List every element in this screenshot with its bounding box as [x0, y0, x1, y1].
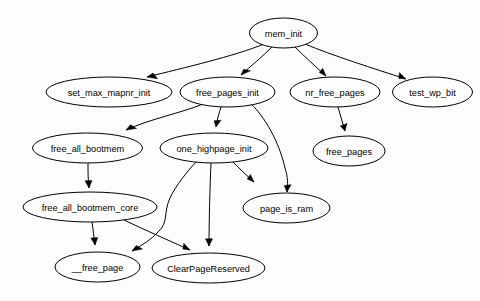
- graph-edge-one_highpage_init-to-page_is_ram: [233, 162, 254, 182]
- node-label: free_all_bootmem: [51, 144, 125, 154]
- node-label: free_all_bootmem_core: [42, 203, 139, 213]
- node-label: free_pages_init: [196, 88, 259, 98]
- arrowhead-icon: [399, 73, 406, 79]
- graph-node-mem_init[interactable]: mem_init: [250, 18, 318, 48]
- arrowhead-icon: [183, 243, 190, 250]
- graph-edge-free_all_bootmem_core-to-__free_page: [91, 222, 98, 245]
- arrowhead-icon: [214, 120, 221, 127]
- graph-node-free_pages_init[interactable]: free_pages_init: [180, 77, 275, 107]
- graph-node-test_wp_bit[interactable]: test_wp_bit: [393, 77, 473, 107]
- graph-node-free_pages[interactable]: free_pages: [313, 136, 385, 166]
- node-label: page_is_ram: [260, 204, 313, 214]
- node-label: set_max_mapnr_init: [68, 88, 151, 98]
- graph-node-set_max_mapnr_init[interactable]: set_max_mapnr_init: [46, 77, 172, 107]
- arrowhead-icon: [247, 175, 254, 182]
- graph-node-ClearPageReserved[interactable]: ClearPageReserved: [152, 253, 265, 283]
- node-label: nr_free_pages: [305, 88, 365, 98]
- graph-edge-mem_init-to-nr_free_pages: [295, 47, 326, 76]
- node-label: one_highpage_init: [176, 144, 252, 154]
- node-label: free_pages: [326, 147, 372, 157]
- graph-node-one_highpage_init[interactable]: one_highpage_init: [160, 133, 268, 163]
- node-label: ClearPageReserved: [167, 264, 250, 274]
- node-label: mem_init: [265, 29, 303, 39]
- graph-edge-free_all_bootmem_core-to-ClearPageReserved: [124, 220, 190, 250]
- arrowhead-icon: [147, 73, 158, 79]
- arrowhead-icon: [85, 181, 92, 188]
- graph-edge-mem_init-to-test_wp_bit: [305, 44, 406, 79]
- graph-edge-free_pages_init-to-free_all_bootmem: [126, 104, 203, 130]
- arrowhead-icon: [319, 68, 326, 76]
- edge-line: [305, 44, 406, 79]
- arrowhead-icon: [132, 246, 142, 252]
- graph-edge-free_pages_init-to-one_highpage_init: [214, 107, 221, 127]
- call-graph-diagram: mem_initset_max_mapnr_initfree_pages_ini…: [0, 0, 480, 301]
- graph-edge-mem_init-to-free_pages_init: [241, 47, 272, 75]
- arrowhead-icon: [206, 239, 213, 246]
- graph-edge-free_all_bootmem-to-free_all_bootmem_core: [85, 163, 92, 188]
- graph-node-nr_free_pages[interactable]: nr_free_pages: [290, 77, 380, 107]
- arrowhead-icon: [241, 69, 250, 75]
- edge-line: [209, 163, 211, 246]
- graph-edge-one_highpage_init-to-ClearPageReserved: [206, 163, 213, 246]
- graph-node-free_all_bootmem[interactable]: free_all_bootmem: [33, 133, 143, 163]
- node-label: test_wp_bit: [409, 88, 456, 98]
- nodes-layer: mem_initset_max_mapnr_initfree_pages_ini…: [23, 18, 473, 283]
- graph-canvas: mem_initset_max_mapnr_initfree_pages_ini…: [0, 0, 480, 301]
- graph-edge-mem_init-to-set_max_mapnr_init: [147, 44, 264, 79]
- edge-line: [126, 104, 203, 130]
- edge-line: [124, 220, 190, 250]
- graph-node-__free_page[interactable]: __free_page: [55, 252, 140, 282]
- arrowhead-icon: [91, 238, 98, 245]
- arrowhead-icon: [126, 125, 137, 130]
- graph-node-free_all_bootmem_core[interactable]: free_all_bootmem_core: [23, 192, 157, 222]
- arrowhead-icon: [284, 185, 291, 192]
- arrowhead-icon: [340, 123, 347, 131]
- node-label: __free_page: [71, 263, 124, 273]
- graph-node-page_is_ram[interactable]: page_is_ram: [243, 193, 330, 223]
- graph-edge-nr_free_pages-to-free_pages: [338, 107, 347, 131]
